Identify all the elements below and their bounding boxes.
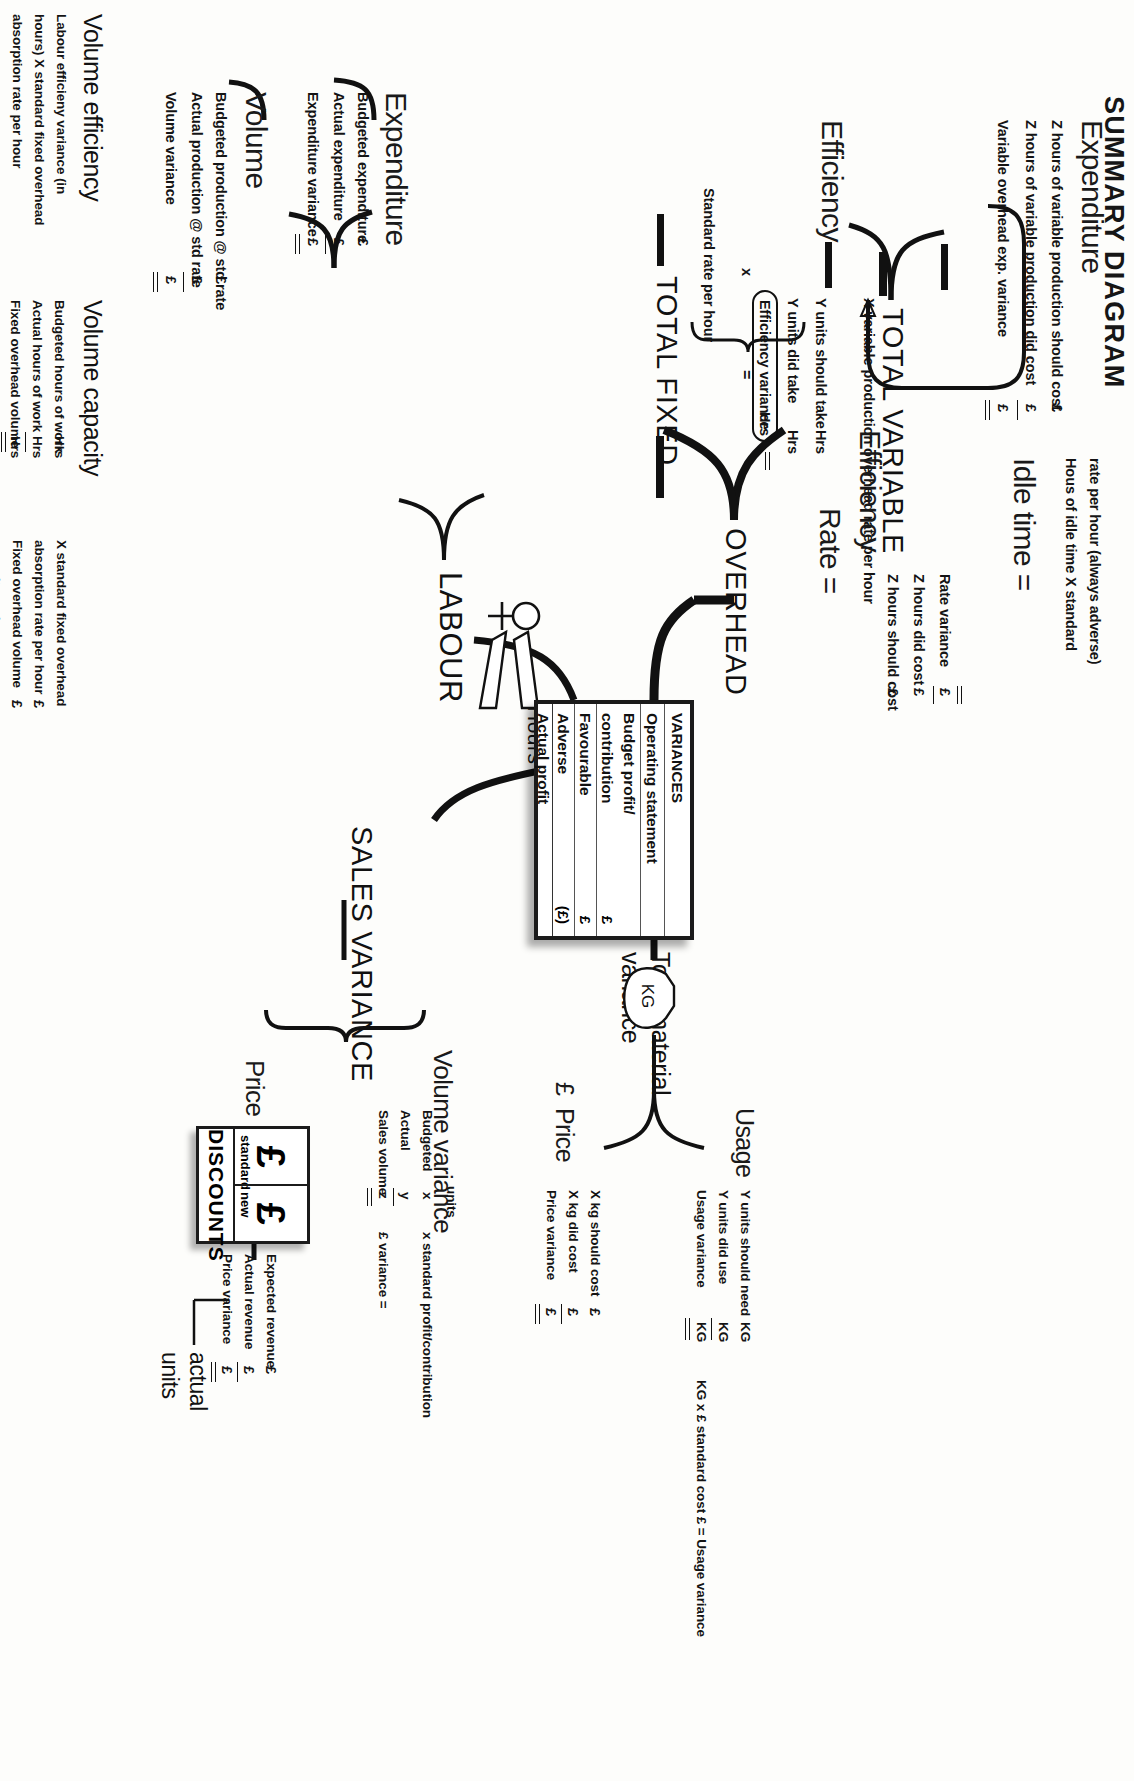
variances-row-amount-2: £ <box>599 916 616 924</box>
material-price-amt-2: £ <box>543 1308 558 1316</box>
sales-volume-line-2: Sales volume <box>376 1110 390 1195</box>
discounts-title: DISCOUNTS <box>204 1129 228 1262</box>
variable-efficiency-line-0: Y units should take <box>813 298 828 429</box>
table-row: Favourable £ <box>574 704 596 936</box>
volume-efficiency-note-1: Labour efficieny variance (in <box>54 14 68 194</box>
table-row: Adverse (£) <box>552 704 574 936</box>
labour-idle-line2: rate per hour (always adverse) <box>1087 458 1102 665</box>
fixed-volume-amt-0: £ <box>213 276 228 284</box>
volume-capacity-tail-2: absorption rate per hour <box>32 540 46 694</box>
material-price-divider <box>561 1304 562 1324</box>
volume-capacity-tail-amt-2: £ <box>9 700 24 708</box>
spine-rule-fixed <box>656 436 664 498</box>
volume-capacity-tail-4: capacity variance <box>0 540 2 651</box>
table-row: Actual profit <box>534 704 552 936</box>
table-row: Operating statement <box>640 704 664 936</box>
variances-row-amount-3: £ <box>577 916 594 924</box>
variable-expenditure-line-0: Z hours of variable production should co… <box>1049 120 1064 411</box>
labour-rate-line-1: Z hours did cost <box>911 574 926 685</box>
variances-row-label-1: Budget profit/ <box>620 713 638 815</box>
fixed-expenditure-divider <box>325 234 326 254</box>
material-price-amt-0: £ <box>587 1308 602 1316</box>
kg-bag-icon: KG <box>620 962 682 1034</box>
material-usage-unit-0: KG <box>738 1322 752 1342</box>
labour-idle-heading: Idle time = <box>1009 458 1041 591</box>
fixed-expenditure-amt-2: £ <box>305 238 320 246</box>
material-price-line-0: X kg should cost <box>588 1190 602 1296</box>
material-usage-line-0: Y units should need <box>738 1190 752 1316</box>
volume-capacity-heading: Volume capacity <box>80 300 106 476</box>
volume-capacity-line-0: Budgeted hours of work <box>52 300 66 453</box>
sales-price-line-1: Actual revenue <box>242 1254 256 1349</box>
sales-volume-value-1: y <box>398 1192 412 1199</box>
fixed-expenditure-amt-1: £ <box>331 238 346 246</box>
actual-units-line1: actual <box>186 1352 210 1411</box>
volume-capacity-unit-1: Hrs <box>30 436 44 458</box>
worker-icon <box>462 596 548 716</box>
variable-efficiency-line-1: Y units did take <box>785 298 800 403</box>
variable-expenditure-amt-1: £ <box>1023 404 1038 412</box>
variable-efficiency-total-rule <box>765 452 770 470</box>
variances-row-label-3: Favourable <box>577 713 595 796</box>
labour-rate-divider <box>933 686 934 704</box>
variable-efficiency-unit-0: Hrs <box>813 430 828 454</box>
discounts-title-row: DISCOUNTS <box>199 1129 233 1241</box>
volume-capacity-unit-2: Hrs <box>8 436 22 458</box>
variable-expenditure-amt-2: £ <box>995 404 1010 412</box>
fixed-volume-amt-2: £ <box>163 276 178 284</box>
volume-capacity-unit-0: Hrs <box>52 436 66 458</box>
labour-efficiency-multiplier: x <box>739 268 754 276</box>
discounts-symbol-standard: £ <box>249 1145 294 1167</box>
labour-rate-amt-1: £ <box>911 688 926 696</box>
variable-efficiency-unit-1: Hrs <box>785 430 800 454</box>
svg-text:KG: KG <box>638 984 657 1009</box>
discounts-symbol-row: £ standard £ new <box>233 1129 307 1241</box>
material-usage-total-rule <box>685 1318 690 1340</box>
fixed-expenditure-line-1: Actual expenditure <box>331 92 346 221</box>
fixed-expenditure-amt-0: £ <box>355 238 370 246</box>
sales-price-divider <box>237 1362 238 1382</box>
volume-capacity-tail-amt-1: £ <box>31 700 46 708</box>
fixed-volume-divider <box>183 272 184 292</box>
discounts-sub-new: new <box>238 1192 253 1217</box>
volume-efficiency-heading: Volume efficiency <box>80 14 106 201</box>
variable-expenditure-heading: Expenditure <box>1077 120 1109 274</box>
sales-volume-note: x standard profit/contribution <box>420 1232 434 1418</box>
discounts-title-cell: DISCOUNTS <box>199 1129 233 1262</box>
sales-price-amt-1: £ <box>241 1366 256 1374</box>
variable-efficiency-unit-2: Hrs <box>757 412 772 436</box>
labour-rate-total-rule <box>957 686 962 704</box>
material-price-amt-1: £ <box>565 1308 580 1316</box>
volume-capacity-total-rule <box>1 432 6 452</box>
sales-price-amt-2: £ <box>219 1366 234 1374</box>
sales-volume-line-0: Budgeted <box>420 1110 434 1171</box>
sales-price-line-2: Price variance <box>220 1254 234 1344</box>
sales-price-line-0: Expected revenue <box>264 1254 278 1368</box>
volume-efficiency-note-3: absorption rate per hour <box>10 14 24 168</box>
spine-label-overhead: OVERHEAD <box>721 528 751 696</box>
labour-idle-line1: Hous of idle time X standard <box>1063 458 1078 651</box>
material-usage-unit-1: KG <box>716 1322 730 1342</box>
variable-expenditure-line-2: Variable overhead exp. variance <box>995 120 1010 337</box>
variable-expenditure-amt-0: £ <box>1049 404 1064 412</box>
variances-table-header: VARIANCES <box>669 713 687 803</box>
labour-efficiency-heading: Efficiency <box>855 430 887 552</box>
variances-row-amount-4: (£) <box>555 906 572 924</box>
fixed-volume-amt-1: £ <box>189 276 204 284</box>
table-row: contribution £ <box>596 704 618 936</box>
material-price-currency: £ <box>552 1082 578 1095</box>
summary-diagram-page: SUMMARY DIAGRAM TOTAL VARIABLE OVERHEAD … <box>0 0 1134 1781</box>
labour-efficiency-equals: = <box>737 370 754 379</box>
volume-efficiency-note-2: hours) X standard fixed overhead <box>32 14 46 225</box>
variances-row-label-4: Adverse <box>555 713 573 774</box>
fixed-volume-line-2: Volume variance <box>163 92 178 205</box>
sales-price-amt-0: £ <box>263 1366 278 1374</box>
variances-row-label-5: Actual profit <box>534 713 552 804</box>
material-usage-divider <box>711 1318 712 1340</box>
variable-expenditure-total-rule <box>985 400 990 420</box>
fixed-volume-heading: Volume <box>241 92 273 188</box>
material-price-line-1: X kg did cost <box>566 1190 580 1273</box>
material-price-heading: Price <box>552 1108 578 1162</box>
fixed-expenditure-heading: Expenditure <box>381 92 413 246</box>
variances-table-header-row: VARIANCES <box>664 704 690 936</box>
